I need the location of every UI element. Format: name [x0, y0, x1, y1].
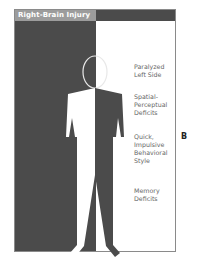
- label-quick-impulsive-behavioral-style: Quick, Impulsive Behavioral Style: [134, 133, 168, 165]
- body-right-half: [95, 88, 124, 257]
- label-paralyzed-left-side: Paralyzed Left Side: [134, 63, 164, 79]
- head-outline: [83, 56, 107, 88]
- label-memory-deficits: Memory Deficits: [134, 187, 160, 203]
- panel-letter: B: [181, 132, 187, 141]
- label-spatial-perceptual-deficits: Spatial- Perceptual Deficits: [134, 93, 167, 117]
- body-left-half: [66, 88, 95, 257]
